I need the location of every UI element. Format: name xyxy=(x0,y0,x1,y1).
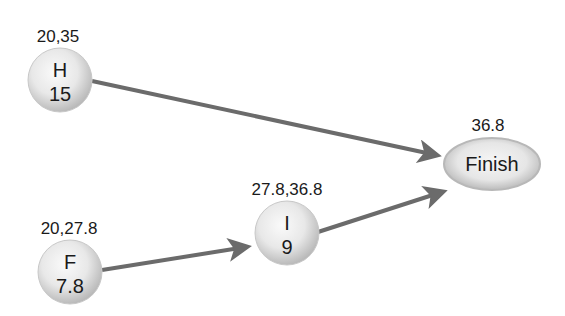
node-f: 20,27.8 F 7.8 xyxy=(38,219,102,304)
node-finish-times: 36.8 xyxy=(471,116,504,135)
node-i: 27.8,36.8 I 9 xyxy=(252,180,323,265)
node-f-duration: 7.8 xyxy=(56,275,84,297)
node-h-times: 20,35 xyxy=(37,27,80,46)
node-finish-name: Finish xyxy=(465,153,518,175)
node-finish: 36.8 Finish xyxy=(444,116,540,190)
node-i-duration: 9 xyxy=(281,236,292,258)
node-i-name: I xyxy=(284,212,290,234)
arrow-icon xyxy=(92,81,436,155)
node-f-name: F xyxy=(64,251,76,273)
arrow-icon xyxy=(102,247,246,270)
node-h: 20,35 H 15 xyxy=(28,27,92,112)
node-i-times: 27.8,36.8 xyxy=(252,180,323,199)
node-h-duration: 15 xyxy=(49,83,71,105)
node-h-name: H xyxy=(53,59,67,81)
arrow-icon xyxy=(318,192,442,232)
edge-f-to-i xyxy=(102,247,246,270)
edge-i-to-finish xyxy=(318,192,442,232)
edge-h-to-finish xyxy=(92,81,436,155)
network-diagram: 20,35 H 15 20,27.8 F 7.8 27.8,36.8 I 9 3… xyxy=(0,0,565,316)
node-f-times: 20,27.8 xyxy=(41,219,98,238)
